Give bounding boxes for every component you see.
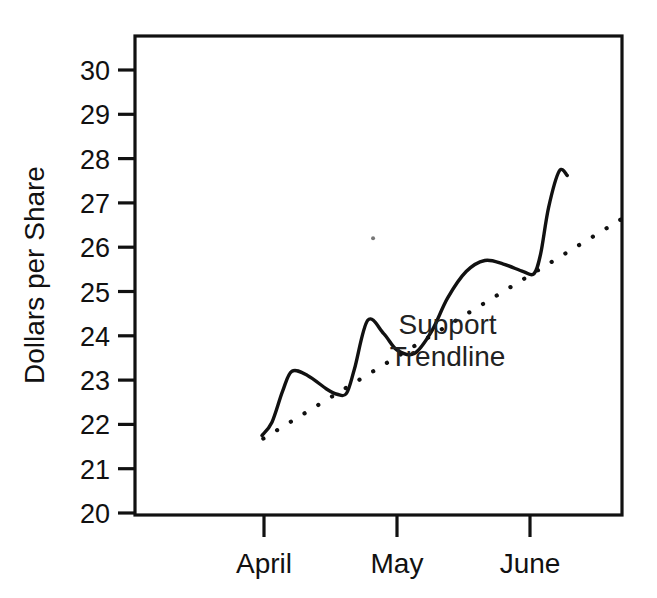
y-tick-label-26: 26 — [80, 233, 110, 263]
y-tick-label-23: 23 — [80, 366, 110, 396]
svg-text:Support: Support — [399, 309, 497, 340]
y-axis-title: Dollars per Share — [19, 166, 50, 384]
price-series-line — [262, 169, 567, 435]
y-tick-label-20: 20 — [80, 499, 110, 529]
x-tick-label-april: April — [236, 548, 292, 579]
x-axis-ticks — [264, 515, 530, 537]
y-tick-label-25: 25 — [80, 278, 110, 308]
plot-frame — [135, 36, 622, 515]
y-tick-label-30: 30 — [80, 56, 110, 86]
chart-canvas: 2021222324252627282930 AprilMayJune Doll… — [0, 0, 657, 598]
x-tick-label-june: June — [500, 548, 561, 579]
y-axis-tick-labels: 2021222324252627282930 — [80, 56, 110, 529]
x-axis-category-labels: AprilMayJune — [236, 548, 560, 579]
support-trendline-annotation: Support Trendline — [390, 309, 506, 372]
y-tick-label-28: 28 — [80, 145, 110, 175]
svg-text:Dollars per Share: Dollars per Share — [19, 166, 50, 384]
x-tick-label-may: May — [371, 548, 424, 579]
stock-price-chart: 2021222324252627282930 AprilMayJune Doll… — [0, 0, 657, 598]
y-axis-ticks — [118, 70, 135, 513]
y-tick-label-29: 29 — [80, 100, 110, 130]
y-tick-label-24: 24 — [80, 322, 110, 352]
stray-speck — [371, 236, 375, 240]
stray-speck-group — [371, 236, 375, 240]
y-tick-label-22: 22 — [80, 410, 110, 440]
y-tick-label-27: 27 — [80, 189, 110, 219]
y-tick-label-21: 21 — [80, 455, 110, 485]
svg-text:Trendline: Trendline — [390, 341, 506, 372]
